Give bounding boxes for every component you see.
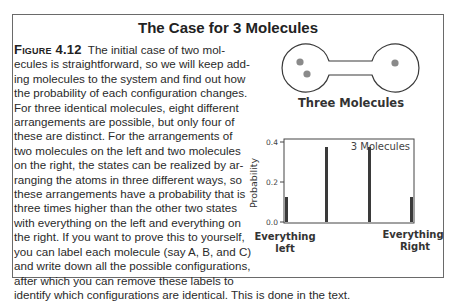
chart-title: 3 Molecules [351, 141, 410, 152]
x-label-right-line1: Everything [382, 229, 443, 240]
bar-one-left-two-right [368, 147, 371, 222]
y-tick-label: 0.4 [266, 138, 278, 147]
y-axis-label: Probability [248, 158, 259, 209]
bar-everything-left [285, 197, 288, 222]
bar-two-left-one-right [325, 147, 328, 222]
molecule-dot [296, 58, 303, 65]
diagram-label: Three Molecules [298, 96, 404, 110]
x-label-left-line2: left [275, 243, 295, 254]
molecule-dot [303, 70, 310, 77]
molecule-dot [391, 59, 398, 66]
y-axis [280, 142, 284, 222]
x-label-right-line2: Right [400, 241, 430, 252]
two-chamber-container [282, 44, 419, 92]
y-tick-label: 0.2 [266, 178, 278, 187]
y-tick-label: 0.0 [266, 218, 278, 227]
probability-chart: 3 Molecules 0.0 0.2 0.4 Probability Ever… [248, 138, 444, 254]
x-label-left-line1: Everything [254, 231, 315, 242]
bar-everything-right [410, 197, 413, 222]
